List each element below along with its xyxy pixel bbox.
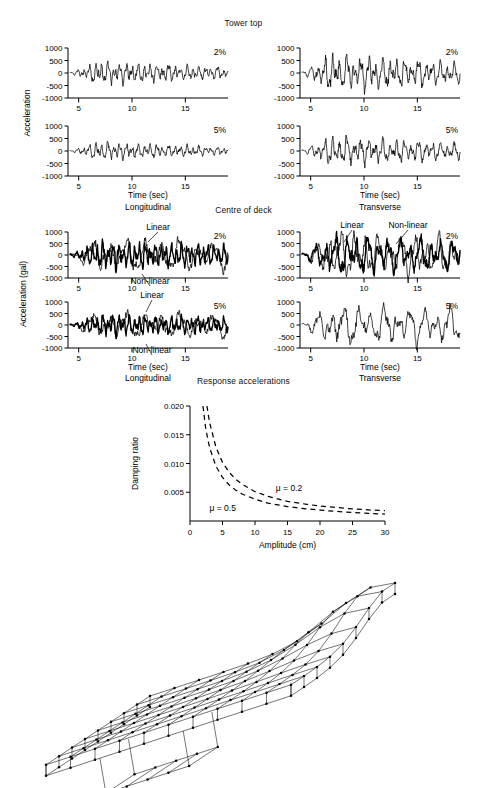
y-tick-label: 1000 xyxy=(45,228,63,237)
section-title-response-accelerations: Response accelerations xyxy=(0,376,487,386)
acceleration-trace xyxy=(302,135,460,168)
x-tick-label: 15 xyxy=(181,182,190,191)
mesh-node xyxy=(205,707,208,710)
y-tick-label: 0.005 xyxy=(164,488,185,497)
tower-top-panel-group: 10005000-500-1000510152%10005000-500-100… xyxy=(0,38,487,218)
y-tick-label: -500 xyxy=(278,160,295,169)
y-tick-label: -1000 xyxy=(42,94,63,103)
x-tick-label: 15 xyxy=(413,104,422,113)
x-tick-label: 15 xyxy=(413,182,422,191)
mesh-node xyxy=(265,692,268,695)
deck-panel-1: 10005000-500-1000510152% xyxy=(274,228,460,293)
section-title-centre-of-deck: Centre of deck xyxy=(0,205,487,215)
mesh-node xyxy=(218,698,221,701)
girder-web xyxy=(100,758,106,788)
mesh-node xyxy=(293,659,296,662)
mesh-node xyxy=(154,766,157,769)
y-tick-label: 500 xyxy=(281,310,295,319)
mesh-node xyxy=(149,695,152,698)
y-tick-label: 0 xyxy=(290,147,295,156)
damping-axes: 0.0050.0100.0150.020051015202530 xyxy=(164,402,390,537)
mesh-node xyxy=(58,755,61,758)
x-tick-label: 5 xyxy=(308,354,313,363)
mesh-node xyxy=(95,738,98,741)
mesh-node xyxy=(133,722,136,725)
mesh-line-col xyxy=(193,641,297,717)
y-axis-label: Damping ratio xyxy=(130,437,140,490)
tower-top-panel-3: 10005000-500-1000510155% xyxy=(274,122,460,191)
y-tick-label: 0 xyxy=(58,69,63,78)
y-tick-label: -500 xyxy=(278,333,295,342)
y-tick-label: 500 xyxy=(49,57,63,66)
y-tick-label: -500 xyxy=(278,82,295,91)
y-tick-label: 500 xyxy=(281,240,295,249)
mesh-node xyxy=(356,595,359,598)
mesh-node xyxy=(160,695,163,698)
x-tick-label: 15 xyxy=(413,354,422,363)
linear-annotation: Linear xyxy=(140,290,164,300)
mesh-node xyxy=(258,661,261,664)
mesh-node xyxy=(355,626,358,629)
mesh-node xyxy=(192,716,195,719)
mesh-node xyxy=(283,649,286,652)
mesh-node xyxy=(306,644,309,647)
mesh-node xyxy=(123,712,126,715)
mesh-node xyxy=(167,735,170,738)
mesh-node xyxy=(143,732,146,735)
mesh-node xyxy=(188,765,191,768)
mesh-node xyxy=(84,738,87,741)
mesh-node xyxy=(307,631,310,634)
mu-0-5-label: μ = 0.5 xyxy=(210,503,237,513)
mesh-node xyxy=(381,590,384,593)
mesh-node xyxy=(121,721,124,724)
x-tick-label: 5 xyxy=(308,182,313,191)
mesh-node xyxy=(170,705,173,708)
mesh-node xyxy=(136,703,139,706)
mesh-node xyxy=(368,618,371,621)
y-tick-label: 500 xyxy=(281,57,295,66)
x-tick-label: 15 xyxy=(283,528,292,537)
y-tick-label: 0 xyxy=(290,69,295,78)
tower-top-panel-0: 10005000-500-1000510152% xyxy=(42,44,228,113)
y-tick-label: -500 xyxy=(46,82,63,91)
x-tick-label: 5 xyxy=(308,284,313,293)
mesh-node xyxy=(118,751,121,754)
x-tick-label: 5 xyxy=(308,104,313,113)
deck-finite-element-mesh xyxy=(0,578,487,788)
mesh-node xyxy=(267,682,270,685)
y-tick-label: 500 xyxy=(49,310,63,319)
y-tick-label: 500 xyxy=(49,240,63,249)
x-axis-label: Time (sec) xyxy=(128,190,168,200)
mesh-node xyxy=(316,677,319,680)
y-tick-label: 1000 xyxy=(45,44,63,53)
y-tick-label: 1000 xyxy=(45,122,63,131)
damping-ratio-chart: 0.0050.0100.0150.020051015202530μ = 0.2μ… xyxy=(0,392,487,572)
mesh-node xyxy=(175,759,178,762)
mesh-node xyxy=(332,611,335,614)
mesh-node xyxy=(329,666,332,669)
damping-label: 2% xyxy=(446,231,459,241)
mesh-node xyxy=(193,706,196,709)
damping-label: 2% xyxy=(446,47,459,57)
girder-rib xyxy=(168,754,197,773)
mesh-node xyxy=(319,626,322,629)
mesh-node xyxy=(241,711,244,714)
mesh-node xyxy=(195,697,198,700)
mesh-node xyxy=(69,756,72,759)
mesh-node xyxy=(241,700,244,703)
mesh-node xyxy=(125,785,128,788)
mesh-node xyxy=(82,747,85,750)
y-tick-label: 0 xyxy=(58,321,63,330)
x-tick-label: 20 xyxy=(316,528,325,537)
mesh-node xyxy=(209,679,212,682)
x-tick-label: 10 xyxy=(128,104,137,113)
mesh-node xyxy=(173,687,176,690)
section-title-tower-top: Tower top xyxy=(0,18,487,28)
y-tick-label: 1000 xyxy=(277,298,295,307)
mesh-node xyxy=(108,730,111,733)
x-tick-label: 10 xyxy=(360,284,369,293)
y-tick-label: -1000 xyxy=(274,172,295,181)
y-tick-label: -1000 xyxy=(274,344,295,353)
mesh-node xyxy=(296,640,299,643)
x-tick-label: 30 xyxy=(381,528,390,537)
